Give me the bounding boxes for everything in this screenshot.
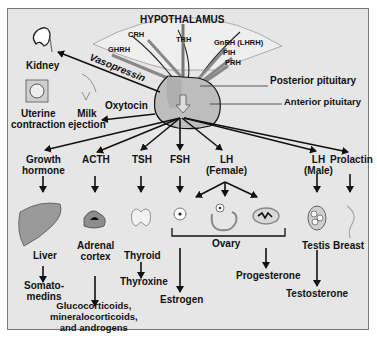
hormone-ghrh: GHRH [108, 46, 130, 54]
gluco-line2: mineralocorticoids, [50, 311, 138, 322]
prolactin-label: Prolactin [330, 154, 373, 165]
gh-line1: Growth [26, 154, 61, 165]
hormone-prh: PRH [225, 59, 241, 67]
somatomedins-label: Somato- medins [24, 280, 64, 302]
thyroid-label: Thyroid [124, 250, 161, 261]
hormone-pih: PIH [223, 49, 236, 57]
adrenal-icon [84, 211, 105, 228]
hypothalamus-title: HYPOTHALAMUS [140, 14, 224, 25]
testis-label: Testis [302, 240, 330, 251]
corpus-luteum-icon [212, 204, 237, 230]
lhf-line2: (Female) [206, 165, 247, 176]
lhf-line1: LH [220, 154, 233, 165]
posterior-pituitary-label: Posterior pituitary [270, 75, 356, 86]
testis-icon [308, 206, 326, 230]
milk-line1: Milk [77, 108, 96, 119]
milk-line2: ejection [68, 119, 106, 130]
liver-label: Liver [33, 250, 57, 261]
lh-female-label: LH (Female) [206, 154, 247, 176]
milk-ejection-label: Milk ejection [68, 108, 106, 130]
hormone-gnrh: GnRH (LHRH) [214, 39, 263, 47]
lhm-line1: LH [312, 154, 325, 165]
liver-icon [19, 203, 61, 246]
ovary-stroma-icon [253, 208, 279, 224]
estrogen-label: Estrogen [160, 294, 203, 305]
tsh-label: TSH [132, 154, 152, 165]
oxytocin-label: Oxytocin [105, 100, 148, 111]
acth-label: ACTH [82, 154, 110, 165]
mammary-icon [82, 74, 96, 100]
hormone-crh: CRH [128, 31, 144, 39]
anterior-pituitary-label: Anterior pituitary [284, 96, 361, 107]
pituitary-gland-icon [155, 76, 221, 129]
gh-line2: hormone [22, 165, 65, 176]
somato-line1: Somato- [24, 280, 64, 291]
progesterone-label: Progesterone [236, 270, 300, 281]
glucocorticoids-label: Glucocorticoids, mineralocorticoids, and… [50, 300, 138, 333]
adrenal-line2: cortex [81, 251, 111, 262]
growth-hormone-label: Growth hormone [22, 154, 65, 176]
breast-label: Breast [333, 240, 364, 251]
kidney-label: Kidney [26, 60, 59, 71]
uterine-line1: Uterine [21, 108, 55, 119]
uterine-label: Uterine contraction [11, 108, 65, 130]
testosterone-label: Testosterone [286, 288, 348, 299]
fsh-label: FSH [170, 154, 190, 165]
kidney-icon [33, 28, 50, 46]
adrenal-label: Adrenal cortex [77, 240, 114, 262]
thyroid-icon [132, 209, 151, 226]
breast-icon [347, 206, 354, 238]
uterus-icon [26, 80, 48, 102]
uterine-line2: contraction [11, 119, 65, 130]
gluco-line3: and androgens [60, 322, 128, 333]
adrenal-line1: Adrenal [77, 240, 114, 251]
thyroxine-label: Thyroxine [120, 276, 168, 287]
gluco-line1: Glucocorticoids, [56, 300, 131, 311]
ovary-follicle-icon [174, 208, 186, 220]
lh-male-label: LH (Male) [304, 154, 333, 176]
ovary-label: Ovary [212, 238, 240, 249]
lhm-line2: (Male) [304, 165, 333, 176]
hormone-trh: TRH [176, 36, 191, 44]
